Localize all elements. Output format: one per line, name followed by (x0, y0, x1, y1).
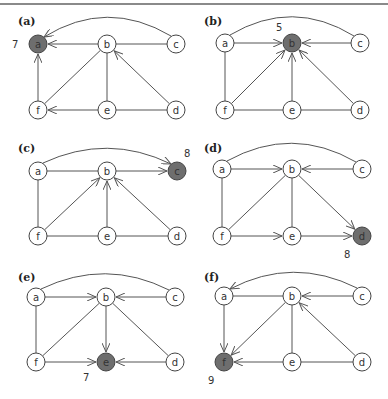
node-label: b (104, 166, 110, 177)
panel-label: (d) (204, 142, 222, 155)
node-label: b (289, 291, 295, 302)
node-e-highlighted: e (97, 353, 115, 371)
edge-d-b (299, 50, 353, 104)
node-b: b (97, 288, 115, 306)
panel-label: (b) (204, 15, 222, 28)
node-label: b (103, 292, 109, 303)
edge-arc-a-c (227, 143, 356, 162)
node-b-highlighted: b (283, 34, 301, 52)
edge-b-d (113, 303, 169, 356)
panel-b: (b)abcfed5 (204, 15, 369, 119)
node-label: e (104, 105, 110, 116)
node-a: a (29, 162, 47, 180)
node-label: d (172, 357, 178, 368)
node-label: c (359, 291, 365, 302)
edge-arc-a-c (230, 17, 354, 36)
node-value-label: 5 (276, 22, 282, 33)
node-label: f (36, 105, 40, 116)
node-e: e (283, 101, 301, 119)
node-label: e (104, 231, 110, 242)
node-c: c (353, 287, 371, 305)
panel-c: (c)abcfed8 (18, 142, 190, 245)
node-label: f (220, 231, 224, 242)
node-a: a (215, 287, 233, 305)
edge-b-f (43, 303, 100, 356)
node-d: d (351, 101, 369, 119)
node-label: e (289, 357, 295, 368)
node-c: c (353, 160, 371, 178)
node-f: f (216, 101, 234, 119)
edge-d-b (299, 303, 355, 356)
node-d: d (167, 101, 185, 119)
node-f: f (29, 101, 47, 119)
node-d: d (166, 353, 184, 371)
node-label: b (289, 38, 295, 49)
edge-b-f (229, 175, 286, 230)
edge-d-b (114, 178, 170, 230)
node-label: e (103, 357, 109, 368)
node-e: e (283, 227, 301, 245)
edge-f-b (231, 50, 285, 104)
node-label: a (33, 292, 39, 303)
node-a: a (27, 288, 45, 306)
node-value-label: 7 (12, 39, 18, 50)
node-label: d (174, 231, 180, 242)
edge-b-f (231, 302, 285, 355)
node-b: b (98, 162, 116, 180)
node-label: a (219, 164, 225, 175)
node-f: f (29, 227, 47, 245)
node-label: e (289, 231, 295, 242)
node-d: d (353, 353, 371, 371)
edge-arc-c-a (230, 272, 357, 289)
node-c: c (351, 34, 369, 52)
edge-arc-c-a (44, 17, 171, 37)
panel-label: (a) (18, 15, 36, 28)
node-label: d (357, 105, 363, 116)
edge-f-b (45, 178, 100, 230)
graph-figure: (a)abcfed7(b)abcfed5(c)abcfed8(d)abcfed8… (0, 0, 388, 399)
edge-b-f (45, 50, 101, 104)
node-e: e (98, 101, 116, 119)
node-b: b (98, 35, 116, 53)
panel-a: (a)abcfed7 (12, 15, 185, 119)
node-a-highlighted: a (29, 35, 47, 53)
node-b: b (283, 287, 301, 305)
node-f: f (27, 353, 45, 371)
node-label: e (289, 105, 295, 116)
node-value-label: 9 (208, 375, 214, 386)
node-label: a (35, 166, 41, 177)
node-label: d (173, 105, 179, 116)
panel-label: (f) (204, 271, 219, 284)
node-label: a (221, 291, 227, 302)
node-label: f (36, 231, 40, 242)
node-label: c (173, 39, 179, 50)
node-b: b (283, 160, 301, 178)
node-label: d (359, 357, 365, 368)
node-value-label: 7 (83, 372, 89, 383)
panel-label: (e) (18, 271, 35, 284)
node-label: f (34, 357, 38, 368)
node-value-label: 8 (184, 148, 190, 159)
node-label: d (359, 231, 365, 242)
node-e: e (98, 227, 116, 245)
edge-d-b (114, 51, 169, 104)
node-label: c (172, 292, 178, 303)
node-c: c (167, 35, 185, 53)
node-d: d (168, 227, 186, 245)
node-label: a (222, 38, 228, 49)
node-label: c (357, 38, 363, 49)
panel-f: (f)abcfed9 (204, 271, 371, 386)
node-label: c (359, 164, 365, 175)
node-label: f (223, 105, 227, 116)
node-f: f (213, 227, 231, 245)
panel-d: (d)abcfed8 (204, 142, 371, 260)
node-c: c (166, 288, 184, 306)
node-label: c (174, 166, 180, 177)
node-label: b (104, 39, 110, 50)
node-label: f (222, 357, 226, 368)
node-f-highlighted: f (215, 353, 233, 371)
node-value-label: 8 (344, 249, 350, 260)
node-a: a (216, 34, 234, 52)
panel-e: (e)abcfed7 (18, 271, 184, 383)
node-e: e (283, 353, 301, 371)
